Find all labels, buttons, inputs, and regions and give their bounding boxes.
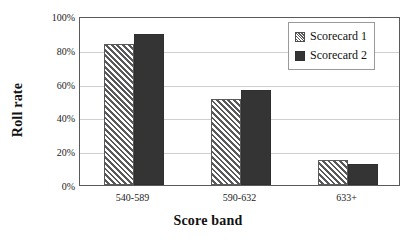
legend-item[interactable]: Scorecard 1 bbox=[295, 27, 367, 46]
bar bbox=[211, 99, 241, 185]
y-axis-tick-label: 40% bbox=[39, 113, 75, 124]
bar bbox=[134, 34, 164, 185]
chart-legend: Scorecard 1 Scorecard 2 bbox=[288, 22, 375, 70]
legend-item-label: Scorecard 2 bbox=[310, 48, 367, 63]
y-axis-tick-label: 60% bbox=[39, 79, 75, 90]
legend-item-label: Scorecard 1 bbox=[310, 29, 367, 44]
y-axis-tick-label: 0% bbox=[39, 181, 75, 192]
legend-swatch-solid-icon bbox=[295, 51, 305, 61]
bar-chart: Roll rate Score band Scorecard 1 Scoreca… bbox=[0, 0, 416, 243]
x-axis-tick-label: 540-589 bbox=[116, 192, 149, 203]
y-axis-tick-label: 20% bbox=[39, 147, 75, 158]
y-axis-tick-label: 100% bbox=[39, 12, 75, 23]
bar bbox=[104, 44, 134, 185]
x-axis-tick-label: 590-632 bbox=[223, 192, 256, 203]
y-axis-tick-label: 80% bbox=[39, 45, 75, 56]
legend-item[interactable]: Scorecard 2 bbox=[295, 46, 367, 65]
bar bbox=[318, 160, 348, 185]
y-axis-title-label: Roll rate bbox=[10, 83, 26, 137]
bar bbox=[348, 164, 378, 185]
x-axis-title: Score band bbox=[0, 213, 416, 229]
x-axis-tick-label: 633+ bbox=[336, 192, 357, 203]
legend-swatch-hatched-icon bbox=[295, 32, 305, 42]
y-axis-title: Roll rate bbox=[6, 55, 30, 165]
bar bbox=[241, 90, 271, 185]
